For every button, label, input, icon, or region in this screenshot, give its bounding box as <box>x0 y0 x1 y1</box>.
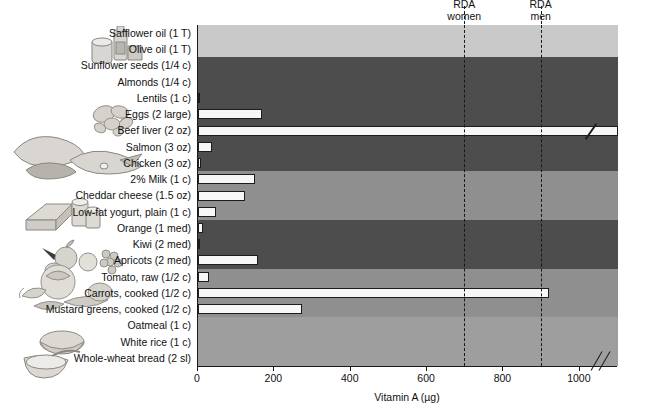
category-label: Carrots, cooked (1/2 c) <box>84 285 191 303</box>
bar <box>198 191 245 201</box>
x-tick-label: 400 <box>325 372 375 384</box>
bar <box>198 93 200 103</box>
food-group-band-fats-and-oils <box>198 25 618 57</box>
food-group-band-grains <box>198 317 618 366</box>
x-tick-label: 600 <box>401 372 451 384</box>
x-tick <box>502 366 503 371</box>
rda-caption-line-2: women <box>429 11 499 23</box>
bar <box>198 304 302 314</box>
category-label: Beef liver (2 oz) <box>117 122 191 140</box>
bar <box>198 174 255 184</box>
category-label: Olive oil (1 T) <box>129 41 191 59</box>
rda-caption: RDAwomen <box>429 0 499 22</box>
bar <box>198 207 216 217</box>
rda-caption-line-1: RDA <box>506 0 576 11</box>
category-label: Orange (1 med) <box>117 220 191 238</box>
x-tick <box>273 366 274 371</box>
category-label: Mustard greens, cooked (1/2 c) <box>46 301 191 319</box>
rda-line <box>541 25 542 366</box>
category-label: White rice (1 c) <box>120 334 191 352</box>
bar <box>198 223 203 233</box>
rda-caption: RDAmen <box>506 0 576 22</box>
x-tick <box>350 366 351 371</box>
x-axis-title: Vitamin A (µg) <box>197 391 617 403</box>
x-tick-label: 1000 <box>554 372 604 384</box>
x-tick-label: 800 <box>477 372 527 384</box>
rda-caption-line-1: RDA <box>429 0 499 11</box>
category-label: Eggs (2 large) <box>125 106 191 124</box>
bar <box>198 142 212 152</box>
bar <box>198 288 549 298</box>
bar <box>198 255 258 265</box>
bar <box>198 109 262 119</box>
bar <box>198 158 201 168</box>
category-label: Safflower oil (1 T) <box>109 25 191 43</box>
category-label: Whole-wheat bread (2 sl) <box>74 350 191 368</box>
bar <box>198 126 618 136</box>
x-tick <box>579 366 580 371</box>
bar <box>198 239 200 249</box>
category-label: Chicken (3 oz) <box>123 155 191 173</box>
category-label: Kiwi (2 med) <box>133 236 191 254</box>
category-label: Almonds (1/4 c) <box>117 74 191 92</box>
bar <box>198 272 209 282</box>
category-label: Oatmeal (1 c) <box>127 317 191 335</box>
x-tick <box>426 366 427 371</box>
plot-area <box>197 25 618 366</box>
rda-line <box>464 25 465 366</box>
category-label: Tomato, raw (1/2 c) <box>101 269 191 287</box>
category-label: Salmon (3 oz) <box>126 139 191 157</box>
axis-break-marks <box>592 352 618 370</box>
x-tick-label: 0 <box>172 372 222 384</box>
rda-caption-line-2: men <box>506 11 576 23</box>
food-group-band-fruits <box>198 220 618 269</box>
category-labels: Safflower oil (1 T)Olive oil (1 T)Sunflo… <box>0 25 195 366</box>
x-tick-label: 200 <box>248 372 298 384</box>
category-label: Apricots (2 med) <box>114 252 191 270</box>
category-label: Sunflower seeds (1/4 c) <box>81 57 191 75</box>
x-tick <box>197 366 198 371</box>
food-group-band-dairy <box>198 171 618 220</box>
vitamin-a-food-sources-chart: Safflower oil (1 T)Olive oil (1 T)Sunflo… <box>0 0 658 415</box>
category-label: 2% Milk (1 c) <box>130 171 191 189</box>
category-label: Low-fat yogurt, plain (1 c) <box>73 204 191 222</box>
category-label: Cheddar cheese (1.5 oz) <box>75 187 191 205</box>
x-axis-line <box>197 366 617 367</box>
category-label: Lentils (1 c) <box>137 90 191 108</box>
